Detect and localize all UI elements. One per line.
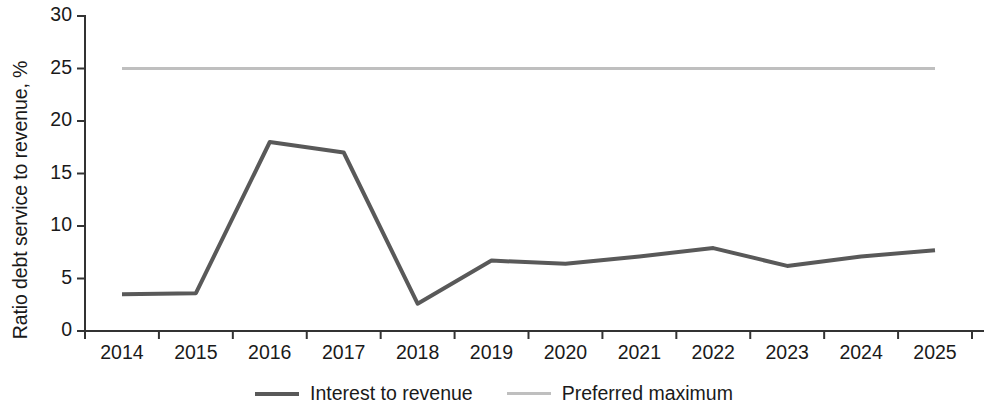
series-line-interest-to-revenue [122,142,935,304]
y-tick-label: 10 [12,213,72,236]
legend-item-interest-to-revenue: Interest to revenue [255,382,473,405]
y-tick-label: 30 [12,3,72,26]
chart-legend: Interest to revenue Preferred maximum [0,378,988,409]
y-tick-label: 5 [12,266,72,289]
x-tick-label: 2018 [378,341,458,364]
x-tick-label: 2021 [599,341,679,364]
x-tick-label: 2014 [82,341,162,364]
legend-item-preferred-maximum: Preferred maximum [507,382,733,405]
x-tick-label: 2022 [673,341,753,364]
axes-group [77,15,984,339]
x-tick-label: 2023 [747,341,827,364]
legend-swatch-interest-to-revenue [255,392,299,396]
legend-swatch-preferred-maximum [507,392,551,395]
x-tick-label: 2015 [156,341,236,364]
chart-figure: Ratio debt service to revenue, % 3025201… [0,0,988,409]
chart-plot-area [0,0,988,380]
series-group [122,69,935,304]
y-tick-label: 0 [12,318,72,341]
y-tick-label: 20 [12,108,72,131]
x-tick-label: 2017 [304,341,384,364]
x-tick-label: 2020 [525,341,605,364]
legend-label-interest-to-revenue: Interest to revenue [310,382,473,405]
legend-label-preferred-maximum: Preferred maximum [562,382,733,405]
x-tick-label: 2019 [452,341,532,364]
y-tick-label: 15 [12,161,72,184]
x-tick-label: 2024 [821,341,901,364]
x-tick-label: 2025 [895,341,975,364]
y-tick-label: 25 [12,56,72,79]
x-tick-label: 2016 [230,341,310,364]
